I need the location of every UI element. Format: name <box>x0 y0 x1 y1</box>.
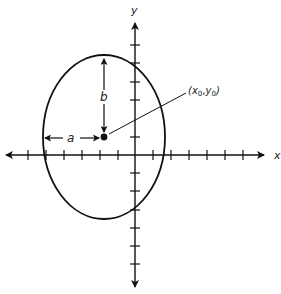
center-point <box>101 134 108 141</box>
center-leader-line <box>109 93 186 134</box>
b-label: b <box>100 90 108 104</box>
center-label: (x0,y0) <box>188 85 220 98</box>
a-label: a <box>67 131 74 145</box>
x-axis: x <box>6 149 281 162</box>
y-axis-label: y <box>130 4 138 17</box>
semi-axis-b: b <box>100 59 108 132</box>
semi-axis-a: a <box>45 131 99 145</box>
y-axis: y <box>130 4 140 287</box>
x-axis-label: x <box>273 149 281 162</box>
ellipse-diagram: x y b a (x0 <box>0 0 281 294</box>
